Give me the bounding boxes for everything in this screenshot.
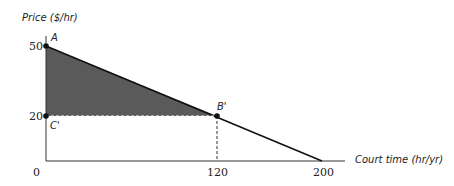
x-tick-0: 0 — [33, 166, 40, 179]
x-tick-200: 200 — [313, 166, 334, 179]
point-b — [214, 113, 220, 119]
chart: Price ($/hr) Court time (hr/yr) 50 20 0 … — [0, 0, 454, 186]
y-tick-50: 50 — [29, 40, 43, 53]
label-b: B' — [217, 101, 227, 112]
x-tick-120: 120 — [207, 166, 228, 179]
point-c — [43, 113, 49, 119]
x-axis-label: Court time (hr/yr) — [355, 154, 443, 165]
point-a — [43, 43, 49, 49]
label-c: C' — [50, 120, 60, 131]
label-a: A — [50, 32, 58, 43]
y-axis-label: Price ($/hr) — [22, 12, 78, 23]
y-tick-20: 20 — [29, 110, 43, 123]
